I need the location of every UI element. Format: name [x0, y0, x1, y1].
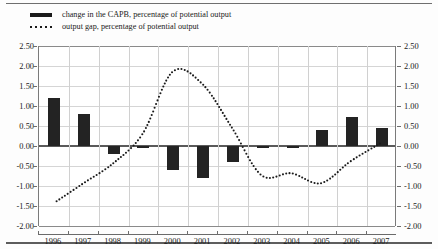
y-axis-tick — [33, 46, 37, 47]
y-axis-tick — [33, 126, 37, 127]
y-axis-tick-label: 1.00 — [404, 102, 436, 111]
x-axis-tick-label: 2001 — [187, 237, 217, 247]
x-axis-tick-label: 1998 — [98, 237, 128, 247]
y-axis-tick — [397, 46, 401, 47]
y-axis-tick-label: 1.00 — [2, 102, 34, 111]
x-axis-tick-label: 2000 — [157, 237, 187, 247]
x-axis-tick-label: 2003 — [247, 237, 277, 247]
y-axis-tick-label: 2.00 — [404, 62, 436, 71]
y-axis-tick — [397, 66, 401, 67]
y-axis-tick-label: -0.50 — [404, 162, 436, 171]
solid-bar-key-icon — [28, 9, 54, 20]
x-axis-tick-label: 2005 — [307, 237, 337, 247]
y-axis-tick-label: -1.00 — [2, 182, 34, 191]
y-axis-tick-label: 1.50 — [404, 82, 436, 91]
y-axis-tick — [397, 86, 401, 87]
y-axis-tick — [33, 86, 37, 87]
x-axis-tick — [307, 231, 308, 235]
x-axis-tick — [217, 231, 218, 235]
x-axis-tick — [187, 231, 188, 235]
y-axis-tick-label: 2.50 — [2, 42, 34, 51]
x-axis-tick-label: 1999 — [128, 237, 158, 247]
y-axis-tick-label: -1.00 — [404, 182, 436, 191]
y-axis-tick — [33, 106, 37, 107]
x-axis-tick — [247, 231, 248, 235]
y-axis-tick — [397, 206, 401, 207]
y-axis-tick — [33, 226, 37, 227]
y-axis-tick-label: -1.50 — [2, 202, 34, 211]
y-axis-tick — [33, 166, 37, 167]
legend-item-output-gap: output gap, percentage of potential outp… — [28, 21, 231, 33]
x-axis-tick-label: 2006 — [336, 237, 366, 247]
x-axis-tick — [336, 231, 337, 235]
legend-label-output-gap: output gap, percentage of potential outp… — [62, 21, 199, 33]
x-axis-tick-label: 1997 — [68, 237, 98, 247]
y-axis-tick — [397, 226, 401, 227]
plot-area — [38, 46, 396, 226]
y-axis-tick-label: 0.00 — [404, 142, 436, 151]
y-axis-tick — [397, 186, 401, 187]
y-axis-tick-label: -2.00 — [404, 222, 436, 231]
x-axis-tick — [157, 231, 158, 235]
x-axis-tick — [38, 231, 39, 235]
x-axis-tick — [68, 231, 69, 235]
y-axis-tick — [397, 166, 401, 167]
x-axis-tick — [128, 231, 129, 235]
y-axis-tick-label: 0.50 — [404, 122, 436, 131]
y-axis-tick-label: 0.50 — [2, 122, 34, 131]
x-axis-tick-label: 2004 — [277, 237, 307, 247]
y-axis-tick-label: -2.00 — [2, 222, 34, 231]
y-axis-tick — [33, 146, 37, 147]
x-axis-tick-label: 2002 — [217, 237, 247, 247]
x-axis-tick — [277, 231, 278, 235]
plot-canvas — [38, 46, 396, 226]
y-axis-tick — [33, 186, 37, 187]
chart-legend: change in the CAPB, percentage of potent… — [28, 9, 231, 32]
y-axis-tick — [397, 106, 401, 107]
y-axis-tick-label: 2.50 — [404, 42, 436, 51]
y-axis-tick — [33, 66, 37, 67]
chart-figure: change in the CAPB, percentage of potent… — [0, 0, 438, 249]
x-axis-tick-label: 2007 — [366, 237, 396, 247]
y-axis-tick-label: 1.50 — [2, 82, 34, 91]
y-axis-tick — [33, 206, 37, 207]
y-axis-tick-label: 2.00 — [2, 62, 34, 71]
y-axis-tick — [397, 146, 401, 147]
dotted-line-key-icon — [28, 21, 54, 32]
x-axis-tick — [366, 231, 367, 235]
y-axis-tick-label: -0.50 — [2, 162, 34, 171]
y-axis-tick-label: -1.50 — [404, 202, 436, 211]
legend-label-capb: change in the CAPB, percentage of potent… — [62, 9, 231, 21]
x-axis-tick-label: 1996 — [38, 237, 68, 247]
y-axis-tick — [397, 126, 401, 127]
gridline — [39, 226, 395, 227]
y-axis-tick-label: 0.00 — [2, 142, 34, 151]
x-axis-tick — [98, 231, 99, 235]
top-rule — [6, 3, 432, 4]
legend-item-capb: change in the CAPB, percentage of potent… — [28, 9, 231, 21]
output-gap-line — [39, 46, 395, 225]
